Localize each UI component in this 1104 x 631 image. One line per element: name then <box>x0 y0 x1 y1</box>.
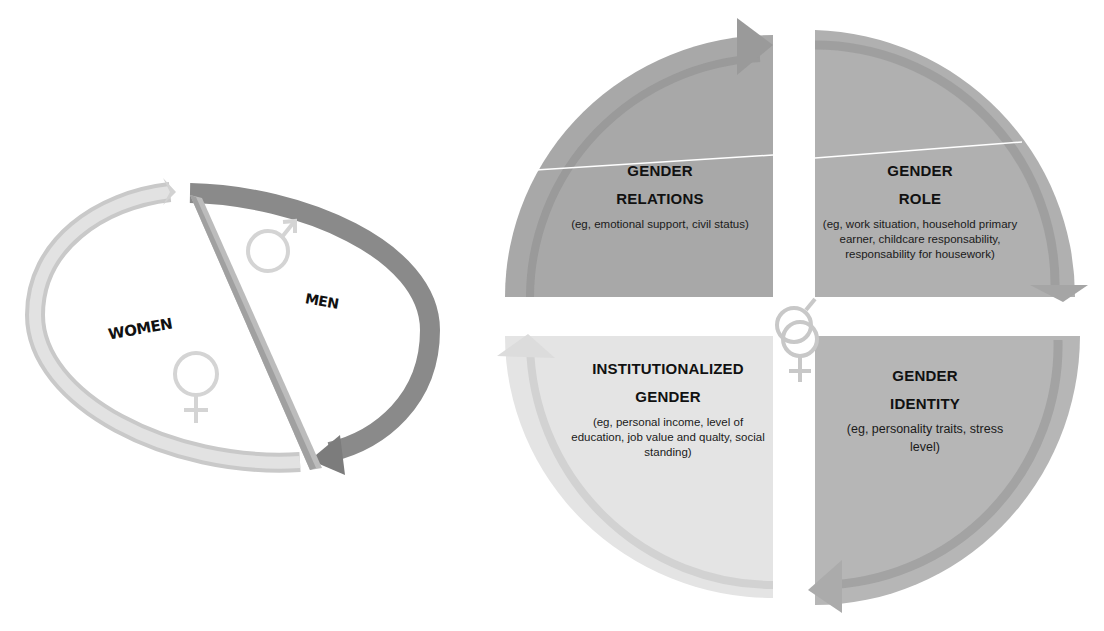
identity-label: GENDER IDENTITY (eg, personality traits,… <box>835 362 1015 456</box>
role-title-line2: ROLE <box>820 185 1020 213</box>
role-description: (eg, work situation, household primary e… <box>820 217 1020 262</box>
role-title-line1: GENDER <box>820 157 1020 185</box>
institutionalized-description: (eg, personal income, level of education… <box>568 415 768 460</box>
identity-title-line2: IDENTITY <box>835 390 1015 418</box>
role-label: GENDER ROLE (eg, work situation, househo… <box>820 157 1020 262</box>
identity-title-line1: GENDER <box>835 362 1015 390</box>
combined-gender-symbol-icon <box>777 299 817 382</box>
relations-title-line2: RELATIONS <box>560 185 760 213</box>
relations-title-line1: GENDER <box>560 157 760 185</box>
identity-description: (eg, personality traits, stress level) <box>835 420 1015 456</box>
institutionalized-title-line2: GENDER <box>568 383 768 411</box>
gender-framework-diagram <box>0 0 1104 631</box>
institutionalized-label: INSTITUTIONALIZED GENDER (eg, personal i… <box>568 355 768 460</box>
relations-description: (eg, emotional support, civil status) <box>560 217 760 232</box>
relations-label: GENDER RELATIONS (eg, emotional support,… <box>560 157 760 232</box>
institutionalized-title-line1: INSTITUTIONALIZED <box>568 355 768 383</box>
